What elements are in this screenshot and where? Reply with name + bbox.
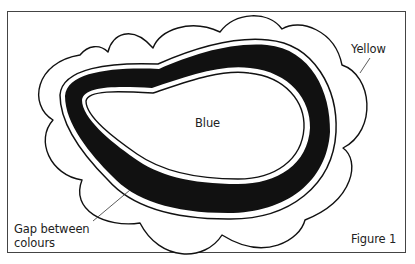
figure-caption: Figure 1 bbox=[351, 233, 396, 246]
figure-1: Blue Yellow Gap between colours Figure 1 bbox=[0, 0, 415, 264]
label-blue: Blue bbox=[195, 117, 220, 130]
yellow-leader-line bbox=[360, 58, 370, 73]
label-yellow: Yellow bbox=[351, 43, 386, 56]
label-gap-line2: colours bbox=[14, 237, 55, 250]
label-gap-line1: Gap between bbox=[14, 223, 90, 236]
